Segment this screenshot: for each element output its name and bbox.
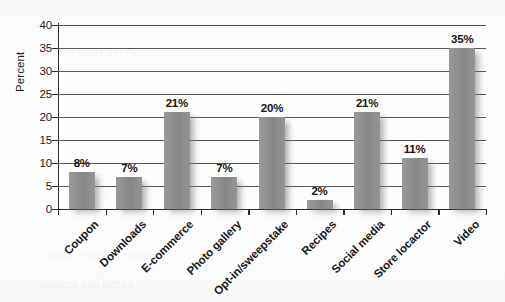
- y-axis-tick-mark: [52, 163, 58, 164]
- bar-value-label: 20%: [261, 102, 283, 114]
- plot-area: 8%7%21%7%20%2%21%11%35%: [58, 25, 486, 209]
- y-axis-tick-label: 25: [0, 88, 52, 100]
- y-axis-tick-mark: [52, 94, 58, 95]
- x-axis-tick-mark: [296, 209, 297, 215]
- bar-value-label: 8%: [74, 157, 90, 169]
- y-axis-tick-label: 10: [0, 157, 52, 169]
- bar[interactable]: [116, 177, 142, 209]
- y-axis-tick-label: 30: [0, 65, 52, 77]
- scan-bleed-text: content marketing: [40, 276, 134, 292]
- y-axis-tick-label: 0: [0, 203, 52, 215]
- bar-slot: 35%: [438, 25, 486, 209]
- bar-value-label: 7%: [121, 162, 137, 174]
- y-axis-tick-label: 5: [0, 180, 52, 192]
- bar-slot: 7%: [106, 25, 154, 209]
- x-axis-category-label: Video: [451, 218, 481, 248]
- bar-slot: 21%: [343, 25, 391, 209]
- y-axis-tick-mark: [52, 186, 58, 187]
- bar-slot: 11%: [391, 25, 439, 209]
- y-axis-tick-mark: [52, 25, 58, 26]
- chart-page: the chart below most common features con…: [0, 0, 505, 302]
- x-axis-category-label: Recipes: [299, 218, 338, 257]
- bar-value-label: 11%: [404, 143, 426, 155]
- bar-value-label: 21%: [166, 97, 188, 109]
- bar-slot: 2%: [296, 25, 344, 209]
- bar[interactable]: [307, 200, 333, 209]
- x-axis-tick-mark: [248, 209, 249, 215]
- y-axis-tick-mark: [52, 48, 58, 49]
- bar-slot: 21%: [153, 25, 201, 209]
- y-axis-tick-label: 35: [0, 42, 52, 54]
- bar[interactable]: [259, 117, 285, 209]
- y-axis-tick-mark: [52, 140, 58, 141]
- bar[interactable]: [354, 112, 380, 209]
- bar-slot: 8%: [58, 25, 106, 209]
- bar-value-label: 7%: [216, 162, 232, 174]
- x-axis-tick-mark: [343, 209, 344, 215]
- x-axis-category-label: Coupon: [62, 218, 101, 257]
- bar-slot: 20%: [248, 25, 296, 209]
- bar[interactable]: [69, 172, 95, 209]
- x-axis-tick-mark: [438, 209, 439, 215]
- y-axis-tick-label: 40: [0, 19, 52, 31]
- y-axis-tick-label: 15: [0, 134, 52, 146]
- x-axis-tick-mark: [486, 209, 487, 215]
- bar[interactable]: [211, 177, 237, 209]
- y-axis-tick-label: 20: [0, 111, 52, 123]
- bar-value-label: 35%: [451, 33, 473, 45]
- y-axis-tick-mark: [52, 71, 58, 72]
- bar-value-label: 21%: [356, 97, 378, 109]
- x-axis-tick-mark: [391, 209, 392, 215]
- bar[interactable]: [449, 48, 475, 209]
- x-axis-tick-mark: [106, 209, 107, 215]
- x-axis-tick-mark: [201, 209, 202, 215]
- x-axis-tick-mark: [58, 209, 59, 215]
- bar[interactable]: [164, 112, 190, 209]
- y-axis-tick-mark: [52, 117, 58, 118]
- x-axis-tick-mark: [153, 209, 154, 215]
- bar[interactable]: [402, 158, 428, 209]
- x-axis-category-label: Downloads: [97, 218, 148, 269]
- bar-slot: 7%: [201, 25, 249, 209]
- bar-value-label: 2%: [311, 185, 327, 197]
